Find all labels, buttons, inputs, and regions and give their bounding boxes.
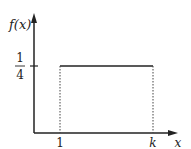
x-tick-label-1: 1 — [56, 136, 64, 149]
y-tick-denominator: 4 — [16, 68, 24, 82]
y-axis-label: f(x) — [8, 17, 31, 32]
x-tick-label-k: k — [149, 136, 156, 149]
y-tick-numerator: 1 — [16, 51, 24, 65]
uniform-distribution-chart: f(x) 1 4 1 k x — [0, 0, 191, 149]
y-axis-arrow-icon — [31, 13, 37, 23]
x-axis-label: x — [175, 136, 182, 149]
